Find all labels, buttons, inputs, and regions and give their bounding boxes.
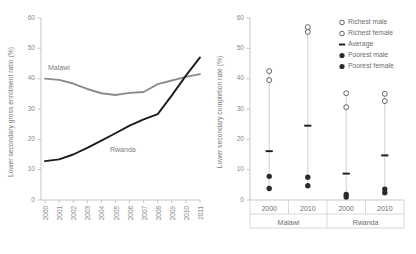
x-tick-label-2002: 2002 bbox=[70, 206, 77, 221]
legend-marker-richest-female bbox=[340, 31, 345, 36]
y-tick-label-right-30: 30 bbox=[237, 105, 245, 112]
legend-label-poorest-male: Poorest male bbox=[348, 51, 388, 58]
legend-label-average: Average bbox=[348, 40, 373, 48]
point-richest-female bbox=[382, 99, 387, 104]
y-tick-label-left-10: 10 bbox=[28, 165, 36, 172]
x-tick-label-rwanda-2010: 2010 bbox=[377, 205, 393, 212]
x-tick-label-2010: 2010 bbox=[183, 206, 190, 221]
x-tick-label-2003: 2003 bbox=[84, 206, 91, 221]
legend-right: Richest male Richest female Average Poor… bbox=[339, 18, 394, 69]
line-series-malawi bbox=[45, 74, 200, 95]
point-poorest-male bbox=[305, 175, 310, 180]
y-tick-label-left-60: 60 bbox=[28, 14, 36, 21]
y-tick-group-left bbox=[38, 18, 42, 200]
point-richest-male bbox=[382, 91, 387, 96]
dot-column-rwanda-2000 bbox=[343, 91, 350, 200]
y-axis-left: 0 10 20 30 40 50 60 bbox=[28, 14, 41, 203]
y-tick-label-left-20: 20 bbox=[28, 135, 36, 142]
figure-container: Lower secondary gross enrolment ratio (%… bbox=[0, 0, 416, 254]
point-poorest-female bbox=[344, 194, 349, 199]
x-tick-group-left bbox=[45, 200, 200, 203]
dot-column-malawi-2010 bbox=[304, 25, 311, 189]
y-tick-label-left-30: 30 bbox=[28, 105, 36, 112]
chart-panel-completion: Lower secondary completion rate (%) 0 10… bbox=[208, 0, 416, 254]
y-tick-label-right-20: 20 bbox=[237, 135, 245, 142]
point-richest-female bbox=[344, 105, 349, 110]
legend-label-richest-female: Richest female bbox=[348, 29, 393, 36]
point-poorest-female bbox=[267, 186, 272, 191]
point-poorest-female bbox=[382, 190, 387, 195]
legend-marker-richest-male bbox=[340, 20, 345, 25]
point-richest-male bbox=[344, 91, 349, 96]
y-axis-title-left: Lower secondary gross enrolment ratio (%… bbox=[7, 47, 15, 177]
x-tick-label-2008: 2008 bbox=[155, 206, 162, 221]
x-tick-label-malawi-2000: 2000 bbox=[261, 205, 277, 212]
y-tick-group-right bbox=[247, 18, 251, 200]
y-tick-label-right-50: 50 bbox=[237, 44, 245, 51]
x-tick-label-2004: 2004 bbox=[98, 206, 105, 221]
y-tick-label-right-40: 40 bbox=[237, 74, 245, 81]
point-poorest-female bbox=[305, 183, 310, 188]
dot-column-rwanda-2010 bbox=[381, 91, 388, 195]
y-tick-label-left-40: 40 bbox=[28, 74, 36, 81]
legend-label-poorest-female: Poorest female bbox=[348, 62, 394, 69]
point-richest-female bbox=[305, 30, 310, 35]
group-label-rwanda: Rwanda bbox=[353, 219, 379, 226]
x-tick-label-2005: 2005 bbox=[113, 206, 120, 221]
enrolment-line-chart-svg: Lower secondary gross enrolment ratio (%… bbox=[0, 0, 208, 254]
y-axis-right: 0 10 20 30 40 50 60 bbox=[237, 14, 250, 203]
x-tick-label-malawi-2010: 2010 bbox=[300, 205, 316, 212]
point-richest-female bbox=[267, 78, 272, 83]
legend-marker-poorest-male bbox=[339, 53, 344, 58]
x-tick-label-2011: 2011 bbox=[197, 206, 204, 220]
dot-column-malawi-2000 bbox=[266, 69, 273, 192]
y-tick-label-right-10: 10 bbox=[237, 165, 245, 172]
completion-dot-chart-svg: Lower secondary completion rate (%) 0 10… bbox=[208, 0, 416, 254]
x-tick-label-2007: 2007 bbox=[141, 206, 148, 221]
series-annotation-rwanda: Rwanda bbox=[110, 146, 136, 153]
x-tick-label-2000: 2000 bbox=[42, 206, 49, 221]
x-tick-label-2001: 2001 bbox=[56, 206, 63, 221]
y-axis-title-right: Lower secondary completion rate (%) bbox=[216, 56, 224, 169]
legend-marker-poorest-female bbox=[339, 64, 344, 69]
y-tick-label-left-0: 0 bbox=[31, 196, 35, 203]
y-tick-label-left-50: 50 bbox=[28, 44, 36, 51]
x-tick-label-rwanda-2000: 2000 bbox=[338, 205, 354, 212]
point-richest-male bbox=[267, 69, 272, 74]
y-tick-label-right-0: 0 bbox=[240, 196, 244, 203]
chart-panel-enrolment: Lower secondary gross enrolment ratio (%… bbox=[0, 0, 208, 254]
x-tick-label-2006: 2006 bbox=[127, 206, 134, 221]
x-axis-left: 2000 2001 2002 2003 2004 2005 2006 2007 … bbox=[41, 200, 204, 220]
series-annotation-malawi: Malawi bbox=[48, 64, 70, 71]
legend-label-richest-male: Richest male bbox=[348, 18, 388, 25]
group-label-malawi: Malawi bbox=[278, 219, 300, 226]
y-tick-label-right-60: 60 bbox=[237, 14, 245, 21]
point-richest-male bbox=[305, 25, 310, 30]
x-tick-label-2009: 2009 bbox=[169, 206, 176, 221]
point-poorest-male bbox=[267, 174, 272, 179]
